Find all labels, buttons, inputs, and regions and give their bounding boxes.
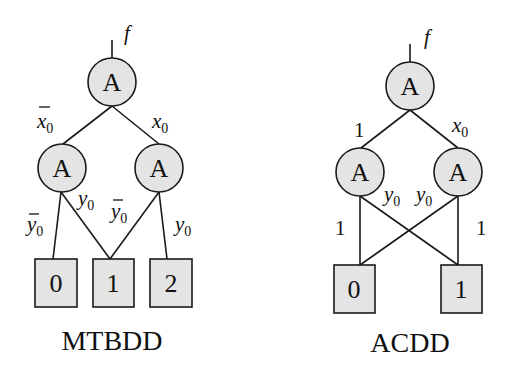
acdd-root-node-label: A — [401, 72, 420, 101]
acdd-label-root-left: 1 — [354, 118, 365, 142]
acdd-left-node-label: A — [351, 158, 370, 187]
mtbdd-label-y0-right: y0 — [173, 212, 191, 239]
svg-text:y0: y0 — [382, 182, 400, 209]
acdd-right-node-label: A — [449, 158, 468, 187]
mtbdd-output-label: f — [124, 21, 133, 45]
acdd-label-y0-right: y0 — [414, 182, 432, 209]
acdd-caption: ACDD — [370, 327, 449, 358]
svg-text:y0: y0 — [25, 212, 43, 239]
svg-text:y0: y0 — [173, 212, 191, 239]
acdd-label-x0: x0 — [451, 113, 468, 140]
mtbdd-label-ybar0-left: y0 — [25, 212, 43, 239]
svg-text:x0: x0 — [151, 109, 168, 136]
mtbdd-caption: MTBDD — [61, 325, 162, 356]
mtbdd-edge-right-to-2 — [159, 192, 167, 259]
svg-text:y0: y0 — [76, 186, 94, 213]
mtbdd-edge-left-to-0 — [53, 192, 61, 259]
acdd-terminal-0-label: 0 — [348, 275, 361, 304]
mtbdd-left-node-label: A — [53, 154, 72, 183]
svg-text:y0: y0 — [414, 182, 432, 209]
acdd-label-y0-left: y0 — [382, 182, 400, 209]
bdd-comparison-figure: f A A A 0 1 2 x0 x0 y0 y0 y0 — [0, 0, 509, 370]
acdd-edge-root-right — [410, 110, 458, 148]
mtbdd-label-xbar0: x0 — [36, 107, 53, 136]
mtbdd-edge-root-left — [63, 106, 112, 144]
mtbdd-label-ybar0-right: y0 — [109, 199, 127, 226]
mtbdd-diagram: f A A A 0 1 2 x0 x0 y0 y0 y0 — [25, 21, 192, 356]
mtbdd-label-y0-left: y0 — [76, 186, 94, 213]
svg-text:y0: y0 — [109, 199, 127, 226]
mtbdd-root-node-label: A — [103, 68, 122, 97]
acdd-terminal-1-label: 1 — [455, 275, 468, 304]
svg-text:x0: x0 — [36, 109, 53, 136]
svg-text:x0: x0 — [451, 113, 468, 140]
acdd-label-right-to-1: 1 — [476, 216, 487, 240]
mtbdd-label-x0: x0 — [151, 109, 168, 136]
mtbdd-terminal-2-label: 2 — [165, 269, 178, 298]
acdd-diagram: f A A A 0 1 1 x0 1 y0 y0 1 ACDD — [334, 25, 487, 358]
mtbdd-terminal-0-label: 0 — [50, 269, 63, 298]
mtbdd-terminal-1-label: 1 — [107, 269, 120, 298]
acdd-edge-root-left — [361, 110, 410, 148]
mtbdd-right-node-label: A — [150, 154, 169, 183]
acdd-label-left-to-0: 1 — [335, 216, 346, 240]
acdd-output-label: f — [424, 25, 433, 49]
